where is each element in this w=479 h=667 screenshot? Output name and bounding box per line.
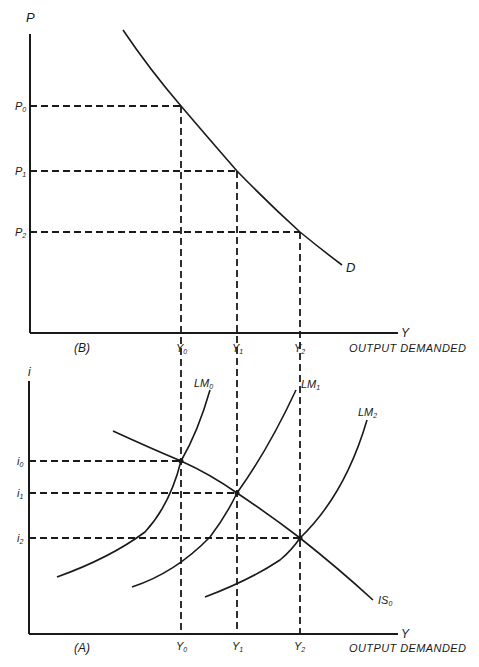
vertical-guide-lines — [181, 106, 300, 634]
lm1-label: LM1 — [301, 378, 320, 391]
lm1-curve — [132, 390, 296, 587]
output-axis-label-b: Y — [401, 326, 410, 340]
output-demanded-title-a: OUTPUT DEMANDED — [349, 642, 466, 654]
p2-label: P2 — [15, 226, 26, 239]
output-axis-label-a: Y — [401, 627, 410, 641]
panel-b: P Y D P0 P1 P2 (B) Y0 Y1 Y2 OUTPUT DEMAN… — [15, 10, 466, 355]
panel-a: i Y IS0 LM0 LM1 LM2 i0 i1 i2 (A) Y0 Y1 Y… — [17, 365, 466, 655]
demand-curve — [123, 30, 342, 265]
y0-label-a: Y0 — [176, 640, 187, 653]
p0-label: P0 — [15, 100, 26, 113]
price-axis-label: P — [26, 10, 35, 25]
equilibrium-point-1 — [235, 491, 240, 496]
panel-a-label: (A) — [74, 641, 90, 655]
lm0-curve — [57, 390, 210, 577]
equilibrium-point-0 — [179, 459, 184, 464]
y1-label-a: Y1 — [232, 640, 243, 653]
i2-label: i2 — [17, 532, 23, 545]
i1-label: i1 — [17, 487, 23, 500]
y2-label-a: Y2 — [294, 640, 305, 653]
is0-label: IS0 — [378, 594, 392, 607]
i0-label: i0 — [17, 455, 23, 468]
panel-b-label: (B) — [74, 341, 90, 355]
lm2-label: LM2 — [358, 406, 377, 419]
is0-curve — [113, 431, 373, 600]
interest-axis-label: i — [28, 365, 31, 379]
demand-curve-label: D — [346, 260, 355, 275]
output-demanded-title-b: OUTPUT DEMANDED — [349, 342, 466, 354]
p1-label: P1 — [15, 165, 26, 178]
lm0-label: LM0 — [194, 377, 213, 390]
aggregate-demand-derivation-diagram: P Y D P0 P1 P2 (B) Y0 Y1 Y2 OUTPUT DEMAN… — [0, 0, 479, 667]
